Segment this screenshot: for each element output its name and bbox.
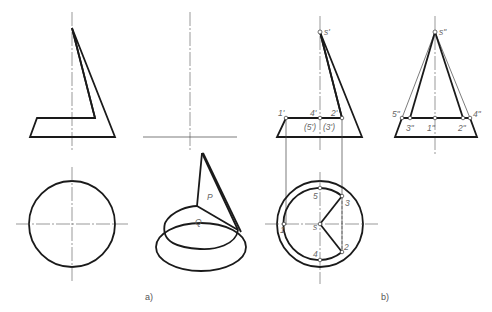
b-top-pt-5 xyxy=(318,186,322,190)
a-top-view xyxy=(16,167,128,282)
b-side-view: s" 5" 4" 3" 1" 2" xyxy=(392,16,482,155)
label-1: 1 xyxy=(280,225,285,235)
b-top-pt-4 xyxy=(318,258,322,262)
b-side-pt-3 xyxy=(408,116,412,120)
b-side-outline-left xyxy=(402,32,435,118)
a-front-cut-edge xyxy=(72,28,95,118)
b-front-cut-edge xyxy=(320,32,342,118)
cone-section-drawing: P Q a) s' 1' 4' 2' (5') (3') xyxy=(0,0,492,312)
label-5-prime-hidden: (5') xyxy=(304,122,316,132)
a-perspective-view: P Q xyxy=(156,153,246,271)
label-4: 4 xyxy=(313,249,318,259)
label-5-double: 5" xyxy=(392,109,401,119)
b-top-cut-line-3 xyxy=(320,196,342,224)
label-4-prime: 4' xyxy=(310,108,317,118)
label-s-prime: s' xyxy=(324,27,330,37)
b-side-outline-right xyxy=(435,32,470,118)
caption-a: a) xyxy=(145,292,153,302)
b-front-pt-2 xyxy=(340,116,344,120)
b-top-cut-line-2 xyxy=(320,224,342,252)
a-front-outline xyxy=(30,28,115,137)
a-front-view xyxy=(30,12,115,152)
b-side-pt-4 xyxy=(468,116,472,120)
label-s-double: s" xyxy=(439,27,447,37)
panel-b: s' 1' 4' 2' (5') (3') s" 5" 4" 3" 1" xyxy=(265,16,482,302)
label-s: s xyxy=(313,222,318,232)
a-plane-p-edge xyxy=(197,153,202,206)
label-2: 2 xyxy=(343,242,349,252)
label-4-double: 4" xyxy=(473,109,482,119)
b-side-pt-2 xyxy=(461,116,465,120)
b-front-pt-4 xyxy=(318,116,322,120)
label-1-prime: 1' xyxy=(278,108,285,118)
label-3-prime-hidden: (3') xyxy=(323,122,335,132)
label-3-double: 3" xyxy=(406,123,415,133)
a-base-ellipse xyxy=(156,223,246,271)
label-2-double: 2" xyxy=(457,123,467,133)
b-front-outline xyxy=(277,32,362,137)
b-top-view: s 1 2 3 4 5 xyxy=(265,172,378,284)
b-side-pt-5 xyxy=(400,116,404,120)
label-plane-p: P xyxy=(207,192,213,202)
b-front-pt-1 xyxy=(284,116,288,120)
b-side-pt-1 xyxy=(433,116,437,120)
b-top-pt-s xyxy=(318,222,322,226)
label-plane-q: Q xyxy=(195,217,202,227)
label-5: 5 xyxy=(313,191,318,201)
panel-a: P Q a) xyxy=(16,12,246,302)
b-side-cut-right xyxy=(435,32,463,118)
b-side-cut-left xyxy=(410,32,435,118)
label-1-double: 1" xyxy=(427,123,436,133)
b-front-pt-s xyxy=(318,30,322,34)
label-3: 3 xyxy=(345,198,350,208)
a-side-view-axes xyxy=(143,12,237,152)
b-top-pt-3 xyxy=(340,194,344,198)
caption-b: b) xyxy=(381,292,389,302)
b-side-pt-s xyxy=(433,30,437,34)
b-front-view: s' 1' 4' 2' (5') (3') xyxy=(277,16,362,250)
label-2-prime: 2' xyxy=(330,108,338,118)
